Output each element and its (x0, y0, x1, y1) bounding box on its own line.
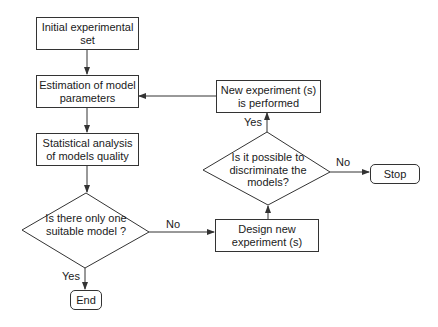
estimation-box: Estimation of model parameters (36, 75, 139, 108)
discriminate-decision: Is it possible to discriminate the model… (222, 151, 314, 189)
experiment-performed-box: New experiment (s) is performed (216, 80, 321, 113)
one-model-decision: Is there only one suitable model ? (40, 212, 132, 237)
yes-label-one-model: Yes (62, 270, 80, 282)
experiment-performed-text: New experiment (s) is performed (217, 84, 320, 110)
initial-set-box: Initial experimental set (36, 17, 139, 50)
no-label-discriminate: No (336, 156, 350, 168)
statistical-analysis-box: Statistical analysis of models quality (36, 133, 139, 166)
yes-label-discriminate: Yes (244, 116, 262, 128)
statistical-analysis-text: Statistical analysis of models quality (37, 137, 138, 163)
initial-set-text: Initial experimental set (37, 21, 138, 47)
end-text: End (76, 294, 96, 307)
one-model-text: Is there only one suitable model ? (45, 212, 126, 237)
end-terminal: End (70, 290, 102, 310)
discriminate-text: Is it possible to discriminate the model… (229, 151, 306, 188)
design-experiment-box: Design new experiment (s) (215, 219, 319, 252)
stop-terminal: Stop (370, 164, 420, 184)
stop-text: Stop (384, 168, 407, 181)
estimation-text: Estimation of model parameters (37, 79, 138, 105)
no-label-one-model: No (166, 218, 180, 230)
design-experiment-text: Design new experiment (s) (216, 223, 318, 249)
